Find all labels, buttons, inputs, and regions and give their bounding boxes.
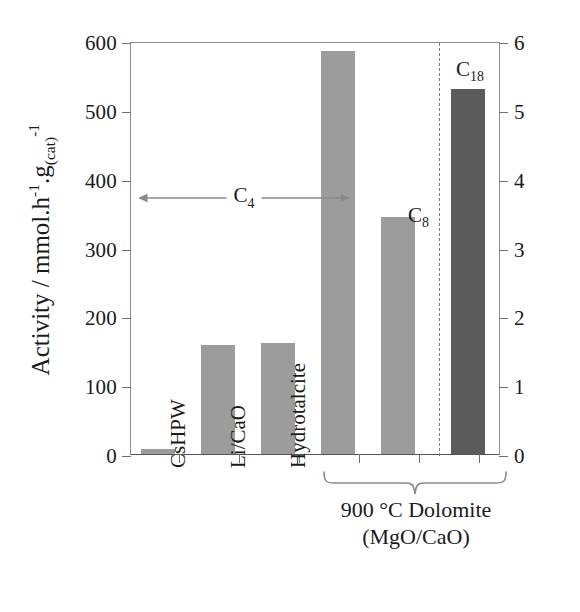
y-axis-label-300: 300 <box>85 237 117 262</box>
y-axis-tick-500 <box>122 112 131 113</box>
y-axis-label-0: 0 <box>106 444 117 469</box>
y2-axis-label-1: 1 <box>514 375 525 400</box>
x-axis-category-label-hydrotalcite: Hydrotalcite <box>286 363 311 468</box>
y2-axis-label-0: 0 <box>514 444 525 469</box>
y-axis-label-400: 400 <box>85 168 117 193</box>
y-axis-label-100: 100 <box>85 375 117 400</box>
y2-axis-label-5: 5 <box>514 99 525 124</box>
c8-label: C8 <box>408 203 429 231</box>
plot-area: 600 500 400 300 200 100 0 6 5 4 3 2 1 0 <box>130 42 500 455</box>
x-axis-category-label-cshpw: CsHPW <box>166 399 191 468</box>
bar-dolomite-c18 <box>451 89 485 454</box>
x-axis-category-label-li-cao: Li/CaO <box>226 405 251 468</box>
y-axis-tick-100 <box>122 387 131 388</box>
y-axis-tick-600 <box>122 43 131 44</box>
y-axis-tick-200 <box>122 318 131 319</box>
y2-axis-label-4: 4 <box>514 168 525 193</box>
c18-label-sub: 18 <box>470 69 484 84</box>
x-axis-tick-5 <box>479 454 480 463</box>
y-axis-title-sup1: -1 <box>25 184 42 197</box>
c4-range-annotation: C4 <box>139 187 349 209</box>
y2-axis-label-2: 2 <box>514 306 525 331</box>
c18-label: C18 <box>456 57 484 85</box>
y2-axis-tick-2 <box>499 318 508 319</box>
y2-axis-tick-0 <box>499 456 508 457</box>
bar-dolomite-c8 <box>381 217 415 454</box>
y2-axis-tick-6 <box>499 43 508 44</box>
c4-label-sub: 4 <box>248 196 255 211</box>
y2-axis-tick-5 <box>499 112 508 113</box>
y-axis-tick-300 <box>122 250 131 251</box>
c4-label: C4 <box>227 183 262 211</box>
group-label-line2: (MgO/CaO) <box>318 523 514 550</box>
chart-canvas: Activity / mmol.h-1.g(cat)-1 600 500 400… <box>0 0 580 612</box>
y-axis-tick-0 <box>122 456 131 457</box>
x-axis-tick-4 <box>419 454 420 463</box>
group-label: 900 °C Dolomite (MgO/CaO) <box>318 496 514 551</box>
bar-dolomite-c4 <box>321 51 355 454</box>
y-axis-title-sup2: -1 <box>25 124 42 137</box>
y-axis-label-600: 600 <box>85 31 117 56</box>
y2-axis-label-6: 6 <box>514 31 525 56</box>
y-axis-label-200: 200 <box>85 306 117 331</box>
y-axis-label-500: 500 <box>85 99 117 124</box>
y2-axis-label-3: 3 <box>514 237 525 262</box>
curly-brace-icon <box>322 470 508 496</box>
y2-axis-tick-1 <box>499 387 508 388</box>
y2-axis-tick-4 <box>499 181 508 182</box>
y-axis-title-lead: Activity / mmol.h <box>27 197 54 375</box>
x-axis-tick-3 <box>359 454 360 463</box>
group-brace-icon <box>322 470 508 496</box>
y-axis-tick-400 <box>122 181 131 182</box>
group-label-line1: 900 °C Dolomite <box>318 496 514 523</box>
y-axis-title-sub1: (cat) <box>41 137 58 165</box>
group-divider-dashed-line <box>439 43 440 456</box>
c8-label-main: C <box>408 203 422 227</box>
c4-label-main: C <box>234 183 248 207</box>
y2-axis-tick-3 <box>499 250 508 251</box>
c18-label-main: C <box>456 57 470 81</box>
y-axis-title: Activity / mmol.h-1.g(cat)-1 <box>25 40 58 460</box>
y-axis-title-mid: .g <box>27 165 54 184</box>
c8-label-sub: 8 <box>422 215 429 230</box>
